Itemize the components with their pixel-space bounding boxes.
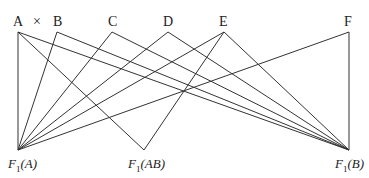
edge-d-f1a xyxy=(18,32,168,150)
edge-a-f1ab xyxy=(18,32,144,150)
f1b-arg: (B) xyxy=(347,156,364,171)
node-label-f1a: F1(A) xyxy=(8,157,37,174)
node-label-f: F xyxy=(344,15,352,29)
edges xyxy=(18,32,349,150)
f1b-prefix: F xyxy=(335,156,343,171)
node-label-c: C xyxy=(108,15,117,29)
f1a-arg: (A) xyxy=(20,156,37,171)
node-label-d: D xyxy=(163,15,173,29)
node-label-b: B xyxy=(53,15,62,29)
cross-symbol: × xyxy=(33,15,41,29)
edge-c-f1b xyxy=(112,32,349,150)
node-label-e: E xyxy=(219,15,228,29)
node-label-f1ab: F1(AB) xyxy=(128,157,165,174)
edge-e-f1a xyxy=(18,32,224,150)
edge-c-f1a xyxy=(18,32,112,150)
edge-e-f1b xyxy=(224,32,349,150)
node-label-f1b: F1(B) xyxy=(335,157,364,174)
f1ab-arg: (AB) xyxy=(140,156,165,171)
edge-d-f1b xyxy=(168,32,349,150)
edge-b-f1b xyxy=(57,32,349,150)
node-label-a: A xyxy=(13,15,23,29)
f1a-prefix: F xyxy=(8,156,16,171)
f1ab-prefix: F xyxy=(128,156,136,171)
